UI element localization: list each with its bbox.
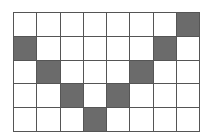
grid-cell	[130, 108, 153, 132]
grid-cell-filled	[61, 84, 84, 108]
grid-cell-filled	[37, 61, 60, 85]
grid-cell	[37, 84, 60, 108]
grid-cell	[154, 84, 177, 108]
grid-cell	[107, 61, 130, 85]
grid-cell	[37, 13, 60, 37]
grid-cell	[130, 84, 153, 108]
grid-cell	[14, 108, 37, 132]
cell-grid	[13, 12, 200, 132]
grid-cell	[61, 108, 84, 132]
grid-cell	[107, 37, 130, 61]
grid-cell-filled	[84, 108, 107, 132]
grid-cell	[37, 108, 60, 132]
grid-cell	[37, 37, 60, 61]
grid-cell	[84, 37, 107, 61]
grid-cell	[14, 84, 37, 108]
grid-cell-filled	[130, 61, 153, 85]
grid-cell	[84, 84, 107, 108]
grid-cell	[154, 13, 177, 37]
grid-cell	[130, 37, 153, 61]
grid-cell	[177, 61, 200, 85]
grid-cell	[14, 61, 37, 85]
grid-cell	[130, 13, 153, 37]
grid-cell	[84, 13, 107, 37]
grid-cell-filled	[107, 84, 130, 108]
grid-cell	[84, 61, 107, 85]
grid-cell	[177, 84, 200, 108]
grid-cell	[154, 108, 177, 132]
grid-cell	[61, 13, 84, 37]
grid-cell	[177, 108, 200, 132]
grid-cell	[107, 108, 130, 132]
grid-cell	[107, 13, 130, 37]
grid-cell	[177, 37, 200, 61]
grid-cell	[61, 37, 84, 61]
grid-cell	[14, 13, 37, 37]
grid-cell-filled	[177, 13, 200, 37]
grid-cell	[61, 61, 84, 85]
grid-cell	[154, 61, 177, 85]
grid-cell-filled	[154, 37, 177, 61]
grid-cell-filled	[14, 37, 37, 61]
